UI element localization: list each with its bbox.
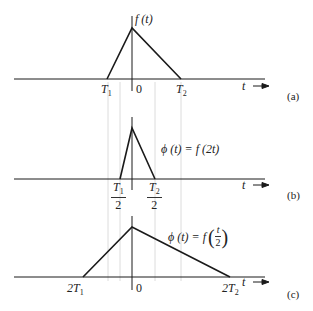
- panel-c-origin-label: 0: [136, 282, 142, 294]
- panel-a-arrow: [253, 84, 269, 89]
- panel-b-t2-sub: 2: [156, 187, 160, 196]
- panel-c-2t2-sub: 2: [235, 288, 239, 297]
- panel-a-t-axis-label: t: [242, 80, 245, 92]
- panel-b-arrow: [253, 183, 269, 188]
- panel-b-t2-half-label: T2 2: [147, 181, 162, 211]
- panel-b-t-axis-label: t: [242, 179, 245, 191]
- panel-c-arrow: [253, 280, 269, 285]
- panel-c-function-prefix: ϕ (t) = f: [168, 231, 206, 243]
- panel-b-t2-main: T: [149, 180, 156, 194]
- panel-a-triangle-pulse: [107, 28, 181, 79]
- panel-a-t1-sub: 1: [108, 89, 112, 98]
- panel-b-t1-main: T: [113, 180, 120, 194]
- diagram-graphics: [0, 0, 313, 311]
- panel-a-t1-label: T1: [101, 83, 112, 98]
- panel-b-caption: (b): [287, 190, 300, 201]
- panel-a-graphics: [14, 16, 265, 91]
- panel-c-2t1-main: 2T: [67, 281, 80, 295]
- panel-a-t2-label: T2: [176, 83, 187, 98]
- panel-b-t2-den: 2: [151, 198, 157, 211]
- panel-c-2t2-main: 2T: [222, 281, 235, 295]
- panel-a-origin-label: 0: [136, 83, 142, 95]
- panel-a-t1-main: T: [101, 82, 108, 96]
- panel-b-function-label: ϕ (t) = f (2t): [161, 143, 219, 155]
- panel-c-t-over-2: t 2: [215, 225, 222, 248]
- panel-a-t2-sub: 2: [183, 89, 187, 98]
- panel-c-frac-den: 2: [216, 237, 221, 248]
- panel-b-t1-half-label: T1 2: [111, 181, 126, 211]
- panel-b-triangle-pulse: [120, 128, 155, 179]
- panel-b-t1-den: 2: [115, 198, 121, 211]
- panel-a-caption: (a): [287, 91, 299, 102]
- panel-c-frac-num: t: [215, 225, 222, 237]
- panel-c-caption: (c): [287, 289, 299, 300]
- panel-b-t1-sub: 1: [120, 187, 124, 196]
- panel-c-function-label: ϕ (t) = f ( t 2 ): [168, 225, 228, 248]
- panel-c-2t2-label: 2T2: [222, 282, 239, 297]
- panel-c-t-axis-label: t: [242, 276, 245, 288]
- panel-b-graphics: [14, 117, 265, 190]
- time-scaling-diagram: f (t) T1 0 T2 t (a) ϕ (t) = f (2t) T1 2 …: [0, 0, 313, 311]
- panel-a-t2-main: T: [176, 82, 183, 96]
- panel-c-2t1-sub: 1: [80, 288, 84, 297]
- panel-c-2t1-label: 2T1: [67, 282, 84, 297]
- panel-a-function-label: f (t): [135, 13, 153, 25]
